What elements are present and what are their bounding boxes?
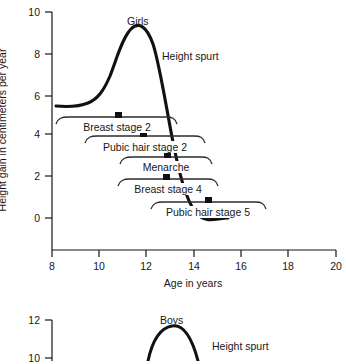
y-tick-label: 10 [14,7,40,18]
girls-height-spurt-label: Height spurt [162,50,219,62]
y-tick-label: 10 [14,353,40,364]
boys-series-label: Boys [160,314,183,326]
x-tick-label: 16 [231,261,251,272]
boys-panel: 12 10 Boys Height spurt [0,300,341,361]
x-axis-title: Age in years [164,277,222,289]
event-label-pubic-hair-stage-2: Pubic hair stage 2 [101,141,189,153]
boys-velocity-curve [148,326,198,361]
y-tick-label: 0 [14,213,40,224]
x-tick-label: 18 [278,261,298,272]
boys-plot-svg [0,300,341,361]
median-marker [163,174,170,180]
y-tick-label: 6 [14,91,40,102]
event-label-breast-stage-4: Breast stage 4 [132,183,204,195]
x-tick-label: 12 [136,261,156,272]
girls-series-label: Girls [127,15,149,27]
y-tick-label: 2 [14,171,40,182]
median-marker [205,197,212,203]
event-label-breast-stage-2: Breast stage 2 [81,121,153,133]
x-tick-label: 20 [326,261,346,272]
x-tick-label: 8 [42,261,62,272]
boys-height-spurt-label: Height spurt [212,340,269,352]
x-tick-label: 10 [89,261,109,272]
girls-panel: 10 8 6 4 2 0 8 10 12 14 16 18 20 Height … [0,0,341,300]
event-label-pubic-hair-stage-5: Pubic hair stage 5 [164,206,252,218]
y-axis-title: Height gain in centimeters per year [0,30,8,230]
x-tick-label: 14 [184,261,204,272]
y-tick-label: 12 [14,315,40,326]
y-tick-label: 8 [14,49,40,60]
girls-x-ticks [52,250,336,257]
y-tick-label: 4 [14,129,40,140]
girls-y-ticks [45,12,52,218]
event-label-menarche: Menarche [141,161,192,173]
median-marker [115,112,122,118]
boys-y-ticks [45,320,52,358]
